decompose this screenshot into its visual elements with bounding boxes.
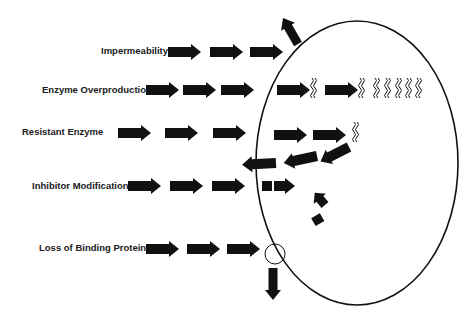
resistant-enzyme-arrows (118, 122, 359, 173)
enzyme-icon (311, 78, 317, 98)
diagram-canvas (0, 0, 475, 325)
enzyme-overproduction-arrows (146, 78, 422, 98)
impermeability-arrows (168, 14, 305, 60)
inhibitor-modification-arrows (128, 178, 331, 226)
loss-of-binding-protein-arrows (146, 241, 285, 300)
